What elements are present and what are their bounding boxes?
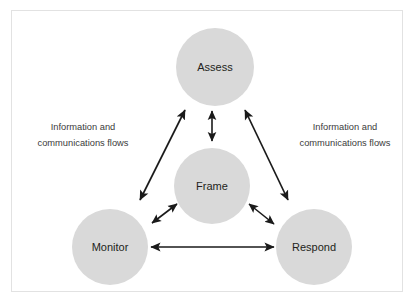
diagram-figure: Assess Frame Monitor Respond Information… (0, 0, 417, 308)
node-label-assess: Assess (197, 61, 233, 73)
right-flow-label-line1: Information and (313, 122, 378, 132)
node-label-respond: Respond (292, 241, 336, 253)
node-label-monitor: Monitor (92, 241, 129, 253)
connector-assess-respond (245, 110, 288, 200)
connector-frame-respond (249, 204, 274, 224)
left-flow-label-line2: communications flows (38, 138, 129, 148)
risk-management-diagram: Assess Frame Monitor Respond Information… (0, 0, 417, 308)
connector-frame-monitor (152, 204, 177, 223)
left-flow-label-line1: Information and (51, 122, 116, 132)
right-flow-label-line2: communications flows (300, 138, 391, 148)
node-label-frame: Frame (196, 180, 228, 192)
